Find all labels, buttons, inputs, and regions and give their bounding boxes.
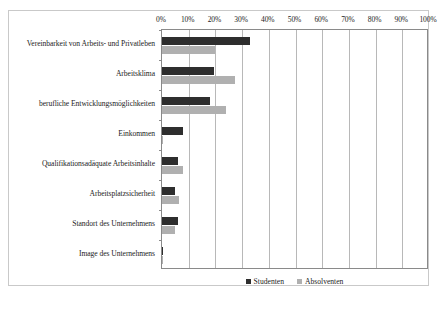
x-tick-label: 10% [181, 15, 194, 24]
category-label: berufliche Entwicklungsmöglichkeiten [39, 99, 155, 108]
category-tick [159, 180, 162, 181]
x-tick-label: 80% [368, 15, 381, 24]
category-tick [159, 240, 162, 241]
category-label: Arbeitsklima [116, 69, 155, 78]
category-label: Arbeitsplatzsicherheit [89, 189, 155, 198]
chart-legend: StudentenAbsolventen [161, 275, 428, 287]
x-tick-label: 50% [288, 15, 301, 24]
chart-figure: 0%10%20%30%40%50%60%70%80%90%100% Verein… [8, 10, 429, 286]
bar-absolventen-4 [162, 166, 183, 174]
gridline [242, 30, 243, 268]
category-label: Qualifikationsadäquate Arbeitsinhalte [42, 159, 155, 168]
gridline [269, 30, 270, 268]
x-tick-label: 70% [341, 15, 354, 24]
bar-studenten-2 [162, 97, 210, 105]
bar-absolventen-5 [162, 196, 179, 204]
category-tick [159, 90, 162, 91]
bar-absolventen-0 [162, 46, 215, 54]
legend-swatch-icon [246, 279, 251, 284]
bar-studenten-5 [162, 187, 175, 195]
gridline [402, 30, 403, 268]
x-tick-label: 30% [234, 15, 247, 24]
bar-studenten-3 [162, 127, 183, 135]
x-axis-tick-labels: 0%10%20%30%40%50%60%70%80%90%100% [161, 15, 428, 29]
x-tick-label: 90% [395, 15, 408, 24]
bar-absolventen-6 [162, 226, 175, 234]
legend-entry-absolventen[interactable]: Absolventen [297, 277, 343, 286]
gridline [215, 30, 216, 268]
bar-absolventen-7 [162, 256, 163, 264]
category-label: Standort des Unternehmens [72, 219, 155, 228]
plot-area [161, 29, 428, 269]
category-tick [159, 210, 162, 211]
legend-swatch-icon [297, 279, 302, 284]
bar-absolventen-3 [162, 136, 163, 144]
bar-absolventen-2 [162, 106, 226, 114]
gridline [349, 30, 350, 268]
x-tick-label: 40% [261, 15, 274, 24]
legend-label: Studenten [254, 277, 284, 286]
x-tick-label: 100% [419, 15, 436, 24]
category-axis-labels: Vereinbarkeit von Arbeits- und Privatleb… [9, 29, 159, 269]
x-tick-label: 0% [156, 15, 166, 24]
bar-studenten-0 [162, 37, 250, 45]
category-tick [159, 120, 162, 121]
legend-label: Absolventen [305, 277, 343, 286]
gridline [376, 30, 377, 268]
x-tick-label: 60% [314, 15, 327, 24]
legend-entry-studenten[interactable]: Studenten [246, 277, 284, 286]
category-tick [159, 30, 162, 31]
bar-studenten-7 [162, 247, 163, 255]
gridline [296, 30, 297, 268]
category-label: Image des Unternehmens [79, 249, 155, 258]
category-tick [159, 60, 162, 61]
bar-studenten-1 [162, 67, 214, 75]
bar-studenten-4 [162, 157, 178, 165]
category-label: Vereinbarkeit von Arbeits- und Privatleb… [27, 39, 155, 48]
x-tick-label: 20% [208, 15, 221, 24]
category-label: Einkommen [118, 129, 155, 138]
gridline [322, 30, 323, 268]
category-tick [159, 150, 162, 151]
bar-studenten-6 [162, 217, 178, 225]
bar-absolventen-1 [162, 76, 235, 84]
